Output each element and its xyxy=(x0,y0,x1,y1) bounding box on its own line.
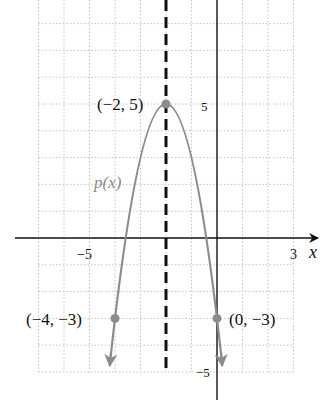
left-point-label: (−4, −3) xyxy=(26,310,82,329)
y-tick-5: 5 xyxy=(201,99,208,114)
function-label: p(x) xyxy=(93,173,122,192)
vertex-label: (−2, 5) xyxy=(97,95,143,114)
left-point xyxy=(111,314,120,323)
right-point xyxy=(213,314,222,323)
vertex-point xyxy=(162,100,171,109)
right-arrow-icon xyxy=(221,352,222,366)
x-axis-label: x xyxy=(308,242,317,262)
right-point-label: (0, −3) xyxy=(229,310,275,329)
x-tick-neg5: −5 xyxy=(77,247,92,262)
left-arrow-icon xyxy=(110,352,111,366)
parabola-graph: (−2, 5) (−4, −3) (0, −3) p(x) −5 3 x 5 −… xyxy=(0,0,331,406)
x-tick-3: 3 xyxy=(290,247,297,262)
y-tick-neg5: −5 xyxy=(196,365,210,380)
